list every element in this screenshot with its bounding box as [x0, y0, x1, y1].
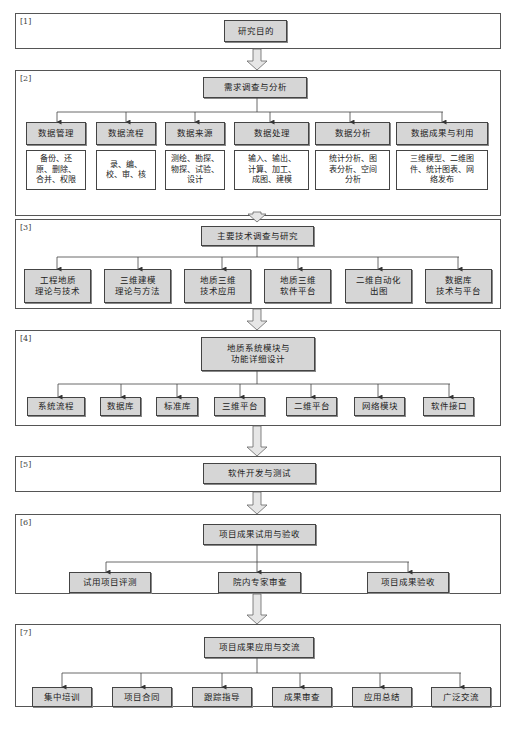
node-data-results[interactable]: 数据成果与利用 [396, 122, 488, 145]
section-label: [3] [20, 223, 31, 232]
node-3d-modeling[interactable]: 三维建模 理论与方法 [104, 269, 171, 303]
node-application-exchange[interactable]: 项目成果应用与交流 [204, 637, 314, 658]
section-label: [4] [20, 334, 31, 343]
node-data-flow[interactable]: 数据流程 [96, 122, 156, 145]
node-trial-acceptance[interactable]: 项目成果试用与验收 [203, 524, 316, 545]
section-label: [7] [20, 628, 31, 637]
node-training[interactable]: 集中培训 [32, 687, 92, 707]
node-trial-evaluation[interactable]: 试用项目评测 [69, 572, 151, 593]
node-expert-review[interactable]: 院内专家审查 [218, 572, 301, 593]
section-label: [1] [20, 17, 31, 26]
node-data-processing[interactable]: 数据处理 [234, 122, 309, 145]
node-research-purpose[interactable]: 研究目的 [224, 20, 287, 42]
node-geo-3d-app[interactable]: 地质三维 技术应用 [184, 269, 251, 303]
node-standard-lib[interactable]: 标准库 [156, 397, 198, 416]
detail-data-flow: 录、编、 校、审、核 [96, 150, 156, 190]
node-system-flow[interactable]: 系统流程 [27, 397, 85, 416]
node-geo-3d-platform[interactable]: 地质三维 软件平台 [264, 269, 331, 303]
block-arrow-down-icon [247, 49, 267, 70]
node-module-design[interactable]: 地质系统模块与 功能详细设计 [201, 337, 315, 371]
node-project-acceptance[interactable]: 项目成果验收 [367, 572, 449, 593]
node-network-module[interactable]: 网络模块 [354, 397, 405, 416]
detail-data-analysis: 统计分析、图 表分析、空间 分析 [315, 150, 390, 190]
section-label: [6] [20, 518, 31, 527]
node-3d-platform[interactable]: 三维平台 [214, 397, 265, 416]
node-result-review[interactable]: 成果审查 [272, 687, 332, 707]
node-data-management[interactable]: 数据管理 [26, 122, 86, 145]
block-arrow-down-icon [247, 309, 267, 330]
node-tracking[interactable]: 跟踪指导 [192, 687, 252, 707]
detail-data-processing: 输入、输出、 计算、加工、 成图、建模 [234, 150, 309, 190]
node-tech-research[interactable]: 主要技术调查与研究 [201, 226, 314, 246]
node-2d-drawing[interactable]: 二维自动化 出图 [345, 269, 412, 303]
node-eng-geology[interactable]: 工程地质 理论与技术 [24, 269, 91, 303]
node-2d-platform[interactable]: 二维平台 [286, 397, 337, 416]
section-label: [5] [20, 460, 31, 469]
detail-data-management: 备份、还 原、删除、 合并、权限 [26, 150, 86, 190]
node-database-tech[interactable]: 数据库 技术与平台 [425, 269, 492, 303]
node-database[interactable]: 数据库 [100, 397, 141, 416]
node-software-interface[interactable]: 软件接口 [423, 397, 474, 416]
node-data-source[interactable]: 数据来源 [165, 122, 225, 145]
block-arrow-down-icon [247, 492, 267, 514]
node-data-analysis[interactable]: 数据分析 [315, 122, 390, 145]
node-contract[interactable]: 项目合同 [112, 687, 172, 707]
node-summary[interactable]: 应用总结 [352, 687, 412, 707]
node-dev-test[interactable]: 软件开发与测试 [203, 463, 316, 484]
block-arrow-down-icon [247, 426, 267, 456]
node-requirements-analysis[interactable]: 需求调查与分析 [203, 77, 307, 98]
detail-data-results: 三维模型、二维图 件、统计图表、网 络发布 [396, 150, 488, 190]
detail-data-source: 测绘、勘探、 物探、试验、 设计 [165, 150, 225, 190]
node-exchange[interactable]: 广泛交流 [431, 687, 491, 707]
section-label: [2] [20, 74, 31, 83]
block-arrow-down-icon [247, 594, 267, 624]
